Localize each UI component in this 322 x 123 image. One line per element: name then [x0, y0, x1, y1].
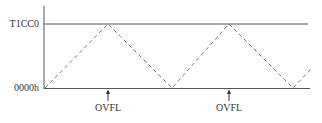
zero-label: 0000h: [14, 83, 39, 93]
timing-diagram-canvas: [0, 0, 322, 123]
ovfl-label-1: OVFL: [95, 103, 121, 113]
ovfl-label-2: OVFL: [216, 103, 242, 113]
arrow-up-icon: [227, 90, 231, 95]
counter-waveform: [45, 24, 312, 88]
up-down-counter-timing-diagram: T1CC0 0000h OVFL OVFL: [0, 0, 322, 123]
arrow-up-icon: [106, 90, 110, 95]
t1cc0-label: T1CC0: [10, 19, 39, 29]
overflow-arrows: [106, 90, 231, 102]
